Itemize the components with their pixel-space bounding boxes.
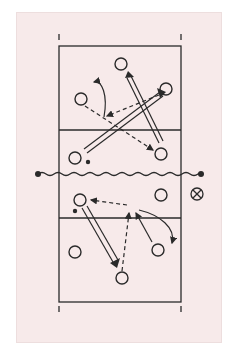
net-line xyxy=(38,173,202,176)
player-bottom-5 xyxy=(152,244,164,256)
crossed-circle-icon xyxy=(191,188,203,200)
player-top-3 xyxy=(75,93,87,105)
player-bottom-2 xyxy=(155,189,167,201)
player-top-4 xyxy=(69,152,81,164)
player-bottom-4 xyxy=(116,272,128,284)
arrow-head-2 xyxy=(125,71,134,78)
player-top-5 xyxy=(155,148,167,160)
player-bottom-1 xyxy=(74,194,86,206)
net-post-right xyxy=(198,171,204,177)
player-top-1 xyxy=(115,58,127,70)
net-post-left xyxy=(35,171,41,177)
ball-top xyxy=(86,160,90,164)
ball-bottom xyxy=(73,209,77,213)
court-diagram xyxy=(0,0,238,361)
player-bottom-3 xyxy=(69,246,81,258)
